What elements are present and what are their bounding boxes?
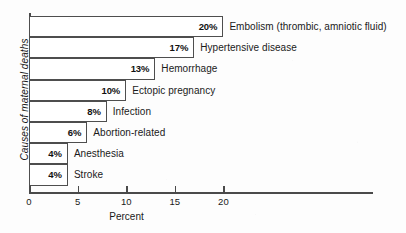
bar-category-label: Embolism (thrombic, amniotic fluid) xyxy=(229,16,386,37)
bar: 10% xyxy=(29,80,126,101)
bar-category-label: Abortion-related xyxy=(93,122,165,143)
bar: 6% xyxy=(29,122,87,143)
bar-category-label: Infection xyxy=(113,101,151,122)
x-axis-tick xyxy=(223,186,224,193)
bar-value-label: 6% xyxy=(68,127,87,138)
bar: 4% xyxy=(29,143,68,164)
x-axis-tick xyxy=(126,186,127,193)
bar-value-label: 4% xyxy=(48,169,67,180)
plot-area: Causes of maternal deaths 20%Embolism (t… xyxy=(0,0,406,233)
bar: 20% xyxy=(29,16,223,37)
bar: 13% xyxy=(29,58,155,79)
bar-category-label: Hemorrhage xyxy=(161,58,217,79)
bar-value-label: 17% xyxy=(170,42,194,53)
bar-category-label: Stroke xyxy=(74,164,103,185)
x-axis-line xyxy=(29,192,373,194)
bar-value-label: 13% xyxy=(131,63,155,74)
bar-category-label: Anesthesia xyxy=(74,143,124,164)
x-axis-tick-label: 20 xyxy=(218,196,229,207)
x-axis-tick-label: 5 xyxy=(75,196,80,207)
x-axis-tick xyxy=(175,186,176,193)
x-axis-tick-label: 0 xyxy=(26,196,31,207)
x-axis-title: Percent xyxy=(29,211,224,222)
bar: 4% xyxy=(29,164,68,185)
bar-value-label: 10% xyxy=(101,85,125,96)
bar-value-label: 4% xyxy=(48,148,67,159)
x-axis-tick xyxy=(29,186,30,193)
x-axis-tick-label: 15 xyxy=(170,196,181,207)
bar-value-label: 8% xyxy=(87,106,106,117)
bar-category-label: Hypertensive disease xyxy=(200,37,297,58)
y-axis-title: Causes of maternal deaths xyxy=(19,20,30,180)
bar-value-label: 20% xyxy=(199,21,223,32)
x-axis-tick-label: 10 xyxy=(121,196,132,207)
bar-category-label: Ectopic pregnancy xyxy=(132,80,215,101)
x-axis-tick xyxy=(78,186,79,193)
bar: 17% xyxy=(29,37,194,58)
bar: 8% xyxy=(29,101,107,122)
chart-figure: Causes of maternal deaths 20%Embolism (t… xyxy=(0,0,406,233)
